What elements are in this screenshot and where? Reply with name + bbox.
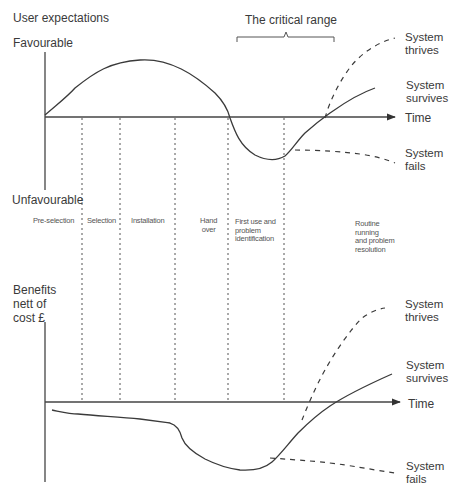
benefits-curve bbox=[52, 374, 392, 470]
benefits-line-3: cost £ bbox=[13, 311, 56, 325]
fails-line-2: fails bbox=[406, 473, 444, 486]
thrives-line-1: System bbox=[405, 298, 443, 311]
top-time-label: Time bbox=[405, 111, 431, 125]
phase-label: over bbox=[200, 226, 217, 235]
thrives-line-2: thrives bbox=[405, 44, 443, 57]
benefits-line-2: nett of bbox=[13, 297, 56, 311]
bottom-time-label: Time bbox=[408, 397, 434, 411]
phase-hand-over: Hand over bbox=[200, 217, 217, 234]
expectations-curve bbox=[45, 60, 375, 160]
top-fails-label: System fails bbox=[405, 147, 443, 173]
bottom-chart bbox=[45, 308, 400, 482]
phase-pre-selection: Pre-selection bbox=[33, 217, 74, 226]
survives-line-1: System bbox=[406, 79, 448, 92]
bottom-survives-label: System survives bbox=[406, 359, 448, 385]
phase-first-use: First use and problem identification bbox=[235, 218, 276, 244]
critical-range-bracket bbox=[237, 32, 334, 42]
fails-curve bbox=[295, 150, 395, 163]
phase-label: identification bbox=[235, 235, 276, 244]
survives-line-1: System bbox=[406, 359, 448, 372]
fails-line-2: fails bbox=[405, 160, 443, 173]
bottom-thrives-curve bbox=[302, 308, 385, 420]
fails-line-1: System bbox=[405, 147, 443, 160]
critical-range-label: The critical range bbox=[245, 13, 337, 27]
thrives-curve bbox=[325, 38, 395, 118]
fails-line-1: System bbox=[406, 460, 444, 473]
top-thrives-label: System thrives bbox=[405, 31, 443, 57]
unfavourable-label: Unfavourable bbox=[12, 193, 83, 207]
favourable-label: Favourable bbox=[13, 36, 73, 50]
survives-line-2: survives bbox=[406, 372, 448, 385]
top-chart-title: User expectations bbox=[13, 11, 109, 25]
thrives-line-1: System bbox=[405, 31, 443, 44]
phase-selection: Selection bbox=[87, 217, 116, 226]
benefits-axis-label: Benefits nett of cost £ bbox=[13, 283, 56, 325]
top-chart bbox=[45, 32, 395, 190]
benefits-line-1: Benefits bbox=[13, 283, 56, 297]
survives-line-2: survives bbox=[406, 92, 448, 105]
thrives-line-2: thrives bbox=[405, 311, 443, 324]
bottom-thrives-label: System thrives bbox=[405, 298, 443, 324]
phase-label: resolution bbox=[355, 246, 395, 255]
phase-routine-running: Routine running and problem resolution bbox=[355, 220, 395, 254]
bottom-fails-curve bbox=[270, 458, 395, 473]
phase-label: Installation bbox=[131, 217, 164, 226]
bottom-fails-label: System fails bbox=[406, 460, 444, 486]
phase-installation: Installation bbox=[131, 217, 164, 226]
top-survives-label: System survives bbox=[406, 79, 448, 105]
phase-dividers bbox=[82, 118, 284, 402]
phase-label: Selection bbox=[87, 217, 116, 226]
phase-label: Pre-selection bbox=[33, 217, 74, 226]
